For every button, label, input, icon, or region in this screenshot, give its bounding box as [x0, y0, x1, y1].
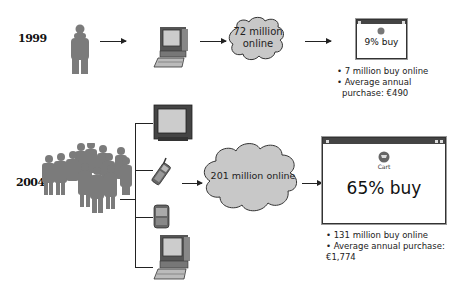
connector-vertical-bus — [135, 123, 136, 268]
connector-to-pda — [135, 217, 153, 218]
shop-window-2004: Cart 65% buy — [322, 137, 446, 224]
connector-to-tv — [135, 123, 153, 124]
connector-to-computer — [135, 267, 153, 268]
buy-percent-2004: 65% buy — [323, 178, 445, 198]
cart-label: Cart — [323, 163, 445, 170]
cloud-line-1: 72 million — [229, 26, 287, 38]
cloud-label-1999: 72 million online — [229, 26, 287, 50]
stat-line: purchase: €490 — [337, 88, 428, 99]
desktop-computer-icon — [152, 25, 192, 69]
stat-line: • Average annual purchase: — [326, 241, 445, 252]
cart-icon — [377, 27, 385, 35]
stat-line: • 7 million buy online — [337, 66, 428, 77]
person-icon — [66, 24, 94, 74]
pda-icon — [153, 204, 171, 230]
mobile-phone-icon — [150, 157, 172, 189]
cloud-label-2004: 201 million online — [205, 170, 301, 182]
cart-icon — [378, 151, 390, 163]
stat-line: €1,774 — [326, 252, 445, 263]
desktop-computer-icon — [152, 233, 194, 281]
arrow-cloud-to-window-2004 — [302, 183, 322, 184]
year-label-1999: 1999 — [18, 32, 47, 45]
stat-line: • 131 million buy online — [326, 230, 445, 241]
window-titlebar — [357, 20, 406, 24]
window-titlebar — [323, 138, 445, 144]
stats-2004: • 131 million buy online • Average annua… — [326, 230, 445, 263]
stat-line: • Average annual — [337, 77, 428, 88]
arrow-devices-to-cloud — [182, 183, 202, 184]
crowd-of-people-icon — [40, 143, 132, 215]
arrow-person-to-computer — [100, 41, 126, 42]
arrow-cloud-to-window — [305, 41, 331, 42]
arrow-computer-to-cloud — [200, 41, 226, 42]
cloud-line-2: online — [229, 38, 287, 50]
stats-1999: • 7 million buy online • Average annual … — [337, 66, 428, 99]
television-icon — [152, 103, 194, 143]
buy-percent-1999: 9% buy — [357, 37, 406, 47]
shop-window-1999: 9% buy — [356, 19, 407, 59]
connector-crowd-to-bus — [120, 199, 136, 200]
